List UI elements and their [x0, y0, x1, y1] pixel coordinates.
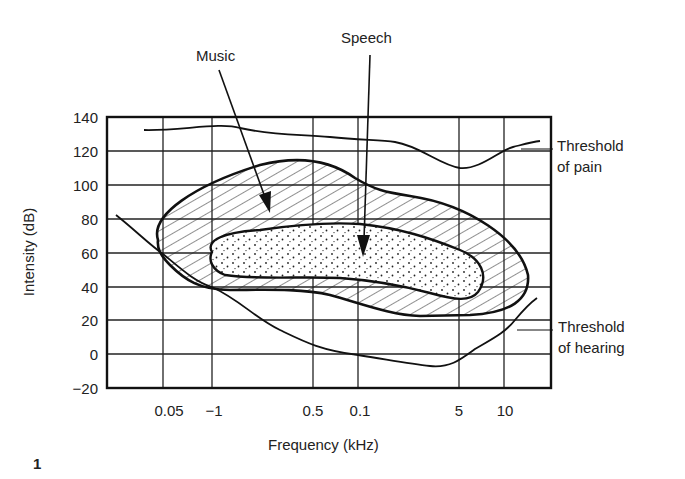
threshold-of-pain-label: Threshold of pain [557, 135, 624, 177]
sound-intensity-chart [0, 0, 685, 479]
y-tick: 0 [38, 347, 98, 362]
figure-number: 1 [33, 455, 41, 472]
x-tick: −1 [205, 403, 222, 418]
x-tick: 5 [455, 403, 463, 418]
x-tick: 10 [497, 403, 514, 418]
y-tick: −20 [38, 381, 98, 396]
y-tick: 80 [38, 212, 98, 227]
x-tick: 0.05 [154, 403, 183, 418]
x-axis-label: Frequency (kHz) [268, 437, 379, 452]
x-tick: 0.1 [350, 403, 371, 418]
y-tick: 20 [38, 313, 98, 328]
threshold-pain-line1: Threshold [557, 135, 624, 156]
music-label: Music [196, 48, 235, 63]
x-tick: 0.5 [303, 403, 324, 418]
y-axis-label: Intensity (dB) [20, 208, 37, 296]
y-tick: 60 [38, 246, 98, 261]
y-tick: 120 [38, 144, 98, 159]
threshold-pain-line2: of pain [557, 156, 624, 177]
threshold-of-pain-curve [144, 126, 540, 168]
y-tick: 40 [38, 280, 98, 295]
threshold-hearing-line1: Threshold [558, 316, 625, 337]
y-tick: 140 [38, 110, 98, 125]
threshold-of-hearing-label: Threshold of hearing [558, 316, 625, 358]
y-tick: 100 [38, 178, 98, 193]
threshold-hearing-line2: of hearing [558, 337, 625, 358]
speech-label: Speech [341, 30, 392, 45]
